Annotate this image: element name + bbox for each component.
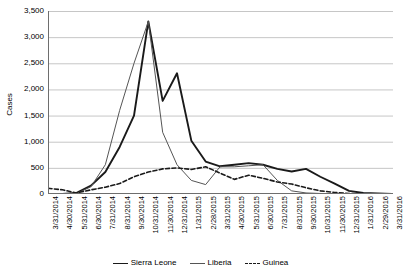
x-axis-tick: 9/30/2014 xyxy=(137,196,146,252)
y-axis-tick: 2,000 xyxy=(6,85,44,93)
x-axis-tick: 10/31/2015 xyxy=(323,196,332,252)
x-axis-tick: 1/31/2016 xyxy=(366,196,375,252)
x-axis-tick: 11/30/2015 xyxy=(338,196,347,252)
legend-item-sierra-leone[interactable]: Sierra Leone xyxy=(113,259,177,267)
y-axis-tick: 2,500 xyxy=(6,59,44,67)
legend-label: Sierra Leone xyxy=(131,259,177,267)
x-axis-tick: 2/28/2015 xyxy=(209,196,218,252)
x-axis-tick: 4/30/2014 xyxy=(65,196,74,252)
x-axis-tick: 11/30/2014 xyxy=(166,196,175,252)
x-axis-tick: 3/31/2014 xyxy=(51,196,60,252)
legend-swatch-guinea xyxy=(245,263,260,264)
legend-label: Liberia xyxy=(208,259,232,267)
plot-area xyxy=(48,11,393,194)
x-axis-tick: 2/29/2016 xyxy=(381,196,390,252)
legend-swatch-liberia xyxy=(190,263,205,264)
x-axis-tick: 6/30/2015 xyxy=(266,196,275,252)
x-axis-tick: 10/31/2014 xyxy=(151,196,160,252)
legend-item-liberia[interactable]: Liberia xyxy=(190,259,232,267)
legend-label: Guinea xyxy=(263,259,289,267)
x-axis-tick: 12/31/2014 xyxy=(180,196,189,252)
plot-svg xyxy=(48,11,393,194)
x-axis-tick: 3/31/2016 xyxy=(395,196,404,252)
y-axis-tick: 1,000 xyxy=(6,138,44,146)
y-axis-tick: 1,500 xyxy=(6,112,44,120)
x-axis-tick: 5/31/2015 xyxy=(252,196,261,252)
x-axis-tick: 9/30/2015 xyxy=(309,196,318,252)
y-axis-tick-labels: 05001,0001,5002,0002,5003,0003,500 xyxy=(0,0,44,210)
series-line-guinea xyxy=(48,167,392,194)
chart-legend: Sierra LeoneLiberiaGuinea xyxy=(0,256,401,270)
x-axis-tick: 8/31/2015 xyxy=(295,196,304,252)
x-axis-tick: 8/31/2014 xyxy=(123,196,132,252)
x-axis-tick: 5/31/2014 xyxy=(80,196,89,252)
y-axis-tick: 3,000 xyxy=(6,33,44,41)
y-axis-tick: 3,500 xyxy=(6,7,44,15)
y-axis-tick: 500 xyxy=(6,164,44,172)
x-axis-tick: 7/31/2015 xyxy=(280,196,289,252)
x-axis-tick: 12/31/2015 xyxy=(352,196,361,252)
legend-item-guinea[interactable]: Guinea xyxy=(245,259,289,267)
x-axis-tick: 7/31/2014 xyxy=(108,196,117,252)
x-axis-tick: 3/31/2015 xyxy=(223,196,232,252)
gridlines xyxy=(48,12,393,169)
legend-swatch-sierra-leone xyxy=(113,263,128,264)
x-axis-tick: 4/30/2015 xyxy=(237,196,246,252)
x-axis-tick: 1/31/2015 xyxy=(194,196,203,252)
x-axis-tick: 6/30/2014 xyxy=(94,196,103,252)
x-axis-tick-labels: 3/31/20144/30/20145/31/20146/30/20147/31… xyxy=(0,196,401,254)
